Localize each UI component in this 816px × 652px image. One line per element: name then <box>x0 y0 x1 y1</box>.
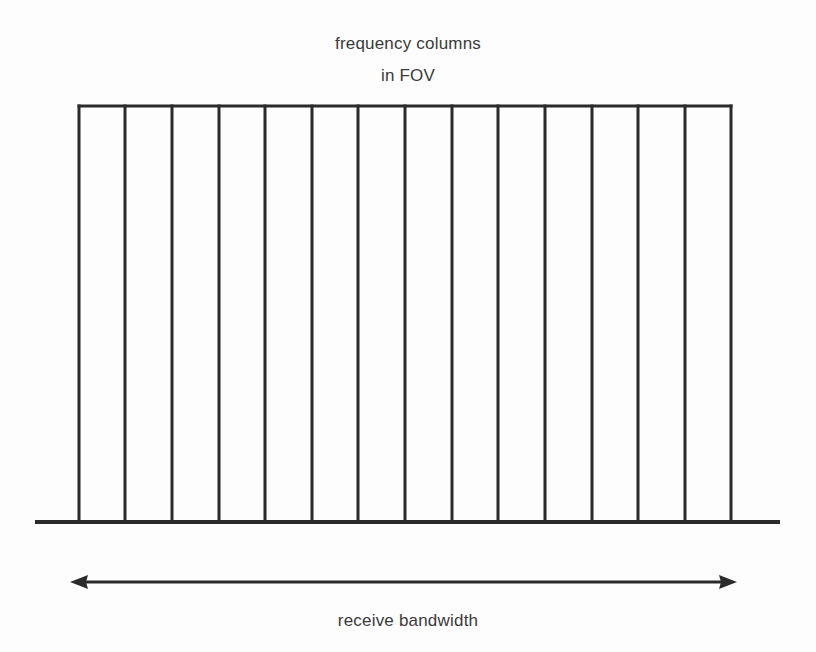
figure-title-line-2: in FOV <box>0 60 816 92</box>
double-headed-arrow <box>70 575 737 589</box>
arrow-head-right <box>719 575 737 589</box>
figure-container: frequency columns in FOV <box>0 0 816 652</box>
arrow-head-left <box>70 575 88 589</box>
figure-title: frequency columns in FOV <box>0 28 816 92</box>
axis-label-receive-bandwidth: receive bandwidth <box>0 611 816 631</box>
column-bars-group <box>79 106 731 522</box>
frequency-columns-diagram <box>0 0 816 652</box>
figure-title-line-1: frequency columns <box>0 28 816 60</box>
